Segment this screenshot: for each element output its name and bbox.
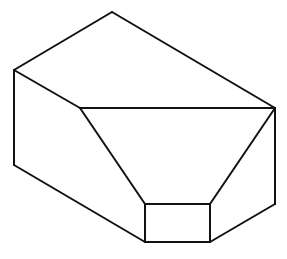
edge-top-left_top [14, 12, 112, 70]
edge-inner_left-box_tl [80, 108, 145, 204]
edge-left_top-inner_left [14, 70, 80, 108]
edge-top-right_top [112, 12, 275, 108]
edge-box_br-right_bottom [210, 204, 275, 242]
drawing-svg [0, 0, 287, 259]
isometric-solid-drawing [0, 0, 287, 259]
edge-right_top-box_tr [210, 108, 275, 204]
